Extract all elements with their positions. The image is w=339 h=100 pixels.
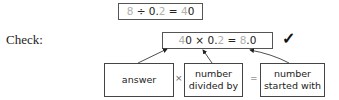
divisor-box: number divided by xyxy=(184,63,243,97)
starting-number-box: number started with xyxy=(260,63,325,97)
equals-operator: = xyxy=(250,73,258,83)
answer-box: answer xyxy=(104,63,174,97)
arrow-answer xyxy=(138,49,167,63)
times-operator: × xyxy=(175,73,183,83)
arrow-divisor xyxy=(203,50,212,63)
arrow-start xyxy=(250,50,289,63)
